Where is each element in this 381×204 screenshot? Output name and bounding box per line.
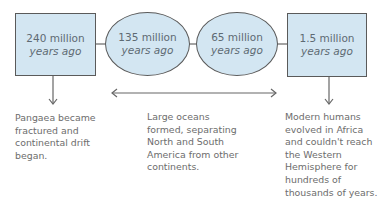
caption-line: hundreds of bbox=[285, 174, 381, 187]
node-label-line2: years ago bbox=[301, 45, 353, 58]
caption-line: America from other bbox=[147, 149, 267, 162]
caption-line: the Western bbox=[285, 149, 381, 162]
node-label-line2: years ago bbox=[211, 44, 263, 57]
node-1-5-million: 1.5 million years ago bbox=[287, 13, 367, 77]
node-label-line1: 135 million bbox=[118, 31, 176, 44]
node-label-line1: 65 million bbox=[211, 31, 263, 44]
caption-line: Modern humans bbox=[285, 111, 381, 124]
caption-line: Pangaea became bbox=[15, 112, 125, 125]
caption-line: North and South bbox=[147, 136, 267, 149]
node-label-line1: 1.5 million bbox=[299, 32, 354, 45]
caption-line: began. bbox=[15, 150, 125, 163]
caption-line: thousands of years. bbox=[285, 187, 381, 200]
caption-oceans: Large oceans formed, separating North an… bbox=[147, 111, 267, 174]
node-65-million: 65 million years ago bbox=[196, 12, 278, 76]
caption-line: formed, separating bbox=[147, 124, 267, 137]
caption-line: continents. bbox=[147, 161, 267, 174]
caption-line: fractured and bbox=[15, 125, 125, 138]
node-label-line1: 240 million bbox=[26, 32, 84, 45]
node-135-million: 135 million years ago bbox=[105, 12, 190, 76]
node-label-line2: years ago bbox=[122, 44, 174, 57]
caption-humans: Modern humans evolved in Africa and coul… bbox=[285, 111, 381, 199]
caption-line: and couldn't reach bbox=[285, 136, 381, 149]
caption-line: evolved in Africa bbox=[285, 124, 381, 137]
node-label-line2: years ago bbox=[30, 45, 82, 58]
caption-line: Large oceans bbox=[147, 111, 267, 124]
caption-pangaea: Pangaea became fractured and continental… bbox=[15, 112, 125, 162]
caption-line: continental drift bbox=[15, 137, 125, 150]
caption-line: Hemisphere for bbox=[285, 161, 381, 174]
node-240-million: 240 million years ago bbox=[15, 13, 96, 76]
